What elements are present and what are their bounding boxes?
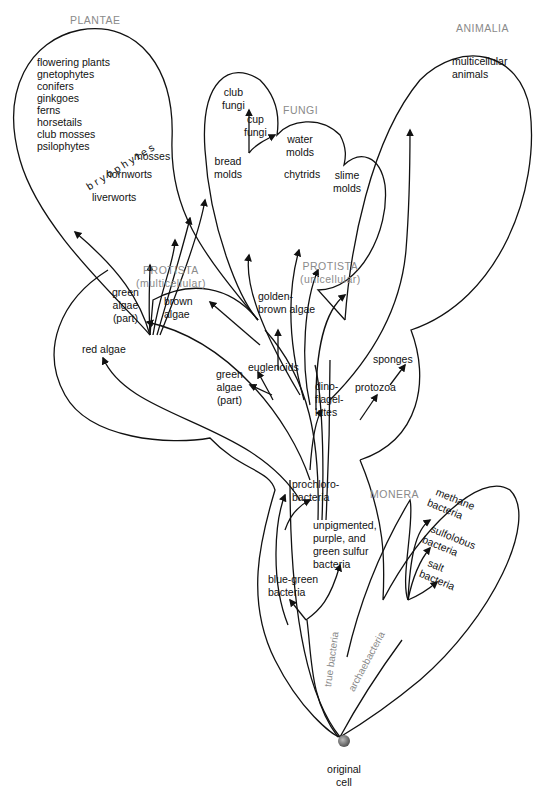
- fungi-cup-line1: cup: [244, 113, 267, 126]
- monera-blue-green: blue-green bacteria: [268, 573, 318, 599]
- kingdom-protista-multi-name: PROTISTA: [136, 264, 206, 277]
- fungi-slime-molds: slime molds: [333, 169, 361, 195]
- fungi-bread-line1: bread: [214, 155, 242, 168]
- plant-ginkgoes: ginkgoes: [37, 92, 110, 104]
- unpigmented-line4: bacteria: [313, 558, 377, 571]
- fungi-bread-line2: molds: [214, 168, 242, 181]
- fungi-club-line1: club: [222, 86, 245, 99]
- animalia-protozoa: protozoa: [355, 381, 396, 394]
- fungi-water-line1: water: [286, 133, 314, 146]
- green-algae-top-line3: (part): [112, 312, 139, 325]
- fungi-water-line2: molds: [286, 146, 314, 159]
- animalia-multi-line2: animals: [452, 68, 507, 81]
- plant-psilophytes: psilophytes: [37, 140, 110, 152]
- plant-liverworts: liverworts: [92, 191, 136, 204]
- fungi-slime-line2: molds: [333, 182, 361, 195]
- fungi-cup: cup fungi: [244, 113, 267, 139]
- plant-ferns: ferns: [37, 104, 110, 116]
- plant-mosses: mosses: [134, 150, 170, 163]
- plantae-vascular-list: flowering plants gnetophytes conifers gi…: [37, 56, 110, 152]
- plant-hornworts: hornworts: [106, 168, 152, 181]
- brown-algae-line1: brown: [164, 295, 193, 308]
- fungi-cup-line2: fungi: [244, 126, 267, 139]
- kingdom-monera: MONERA: [370, 488, 419, 501]
- protista-dinoflagellates: dino- flagel- lates: [315, 380, 344, 419]
- fungi-club-line2: fungi: [222, 99, 245, 112]
- plant-gnetophytes: gnetophytes: [37, 68, 110, 80]
- brown-algae-line2: algae: [164, 308, 193, 321]
- animalia-outline: [345, 56, 532, 460]
- green-algae-top-line1: green: [112, 286, 139, 299]
- prochloro-line1: prochloro-: [292, 478, 339, 491]
- kingdom-protista-unicellular: PROTISTA (unicellular): [300, 260, 361, 286]
- plant-flowering: flowering plants: [37, 56, 110, 68]
- unpigmented-line1: unpigmented,: [313, 519, 377, 532]
- prochloro-line2: bacteria: [292, 491, 339, 504]
- green-algae-mid-line2: algae: [216, 381, 243, 394]
- protista-brown-algae: brown algae: [164, 295, 193, 321]
- fungi-chytrids: chytrids: [284, 168, 320, 181]
- green-algae-top-line2: algae: [112, 299, 139, 312]
- golden-brown-line1: golden-: [258, 290, 315, 303]
- protista-green-algae-top: green algae (part): [112, 286, 139, 325]
- protista-golden-brown-algae: golden- brown algae: [258, 290, 315, 316]
- animalia-sponges: sponges: [373, 353, 413, 366]
- protista-green-algae-mid: green algae (part): [216, 368, 243, 407]
- blue-green-line1: blue-green: [268, 573, 318, 586]
- fungi-club: club fungi: [222, 86, 245, 112]
- kingdom-fungi: FUNGI: [283, 104, 318, 117]
- origin-label: original cell: [322, 763, 366, 788]
- kingdom-plantae: PLANTAE: [70, 14, 121, 27]
- dino-line3: lates: [315, 406, 344, 419]
- monera-prochlorobacteria: prochloro- bacteria: [292, 478, 339, 504]
- unpigmented-line2: purple, and: [313, 532, 377, 545]
- plant-horsetails: horsetails: [37, 116, 110, 128]
- plant-club-mosses: club mosses: [37, 128, 110, 140]
- animalia-multi-line1: multicellular: [452, 55, 507, 68]
- fungi-slime-line1: slime: [333, 169, 361, 182]
- plant-conifers: conifers: [37, 80, 110, 92]
- golden-brown-line2: brown algae: [258, 303, 315, 316]
- fungi-bread-molds: bread molds: [214, 155, 242, 181]
- fungi-water-molds: water molds: [286, 133, 314, 159]
- green-algae-mid-line3: (part): [216, 394, 243, 407]
- monera-unpigmented: unpigmented, purple, and green sulfur ba…: [313, 519, 377, 571]
- dino-line2: flagel-: [315, 393, 344, 406]
- kingdom-protista-uni-name: PROTISTA: [300, 260, 361, 273]
- dino-line1: dino-: [315, 380, 344, 393]
- green-algae-mid-line1: green: [216, 368, 243, 381]
- original-cell-dot-icon: [338, 735, 350, 747]
- unpigmented-line3: green sulfur: [313, 545, 377, 558]
- origin-line2: cell: [322, 776, 366, 788]
- protista-red-algae: red algae: [82, 343, 126, 356]
- origin-line1: original: [322, 763, 366, 776]
- kingdom-protista-multi-sub: (multicellular): [136, 277, 206, 290]
- kingdom-animalia: ANIMALIA: [456, 22, 509, 35]
- animalia-multicellular: multicellular animals: [452, 55, 507, 81]
- kingdom-protista-uni-sub: (unicellular): [300, 273, 361, 286]
- blue-green-line2: bacteria: [268, 586, 318, 599]
- protista-euglenoids: euglenoids: [248, 361, 299, 374]
- kingdom-protista-multicellular: PROTISTA (multicellular): [136, 264, 206, 290]
